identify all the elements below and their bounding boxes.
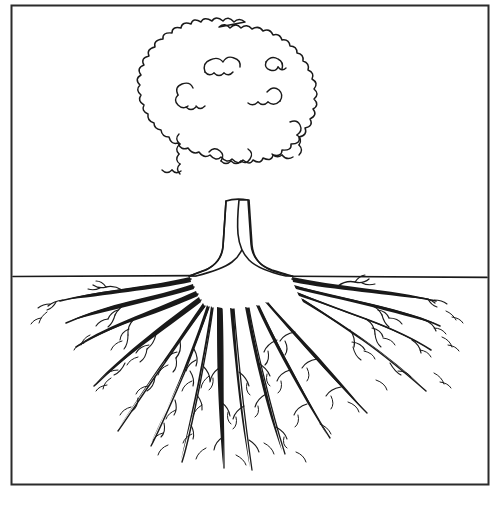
tree-illustration-canvas: Tree with Root System deciduous tree cro…: [0, 0, 497, 510]
tree-root-diagram: [0, 0, 497, 510]
